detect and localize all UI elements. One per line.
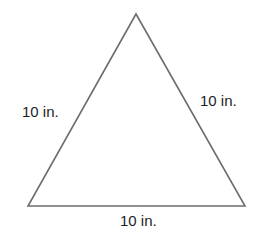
right-side-label: 10 in. (200, 93, 237, 108)
triangle-diagram (0, 0, 261, 242)
triangle-shape (28, 14, 245, 206)
left-side-label: 10 in. (22, 104, 59, 119)
bottom-side-label: 10 in. (120, 213, 157, 228)
